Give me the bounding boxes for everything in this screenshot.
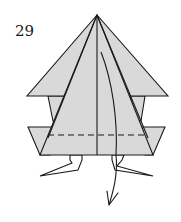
right-leg (112, 155, 153, 176)
left-leg (40, 155, 82, 176)
origami-diagram (0, 0, 181, 222)
